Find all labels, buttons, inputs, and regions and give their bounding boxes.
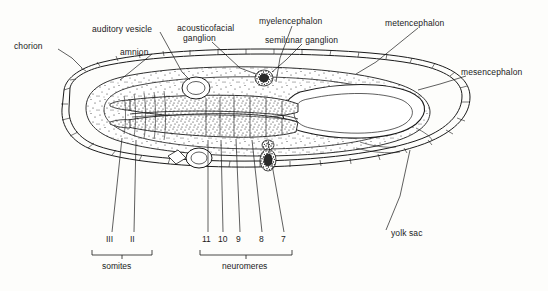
- leader-mesencephalon: [418, 76, 466, 90]
- group-label-neuromeres: neuromeres: [222, 261, 267, 271]
- label-auditory-vesicle: auditory vesicle: [92, 24, 152, 34]
- label-acousticofacial-ganglion-line1: acousticofacial: [177, 23, 234, 33]
- figure-page: chorion amnion auditory vesicle acoustic…: [0, 0, 548, 291]
- label-yolk-sac: yolk sac: [391, 228, 423, 238]
- label-amnion: amnion: [120, 47, 148, 57]
- leader-chorion: [58, 49, 82, 68]
- neuromeres-brace: [200, 250, 292, 255]
- somites-brace: [92, 250, 152, 255]
- label-myelencephalon: myelencephalon: [259, 16, 322, 26]
- group-braces: [92, 250, 292, 259]
- label-semilunar-ganglion: semilunar ganglion: [265, 35, 338, 45]
- somite-numeral-II: II: [130, 234, 135, 244]
- neuromere-numeral-8: 8: [259, 234, 264, 244]
- auditory-vesicle-upper: [182, 77, 210, 99]
- label-mesencephalon: mesencephalon: [461, 67, 522, 77]
- neuromere-numeral-9: 9: [236, 234, 241, 244]
- label-acousticofacial-ganglion-line2: ganglion: [183, 33, 216, 43]
- leader-yolk-sac: [386, 150, 410, 230]
- label-chorion: chorion: [14, 41, 43, 51]
- group-label-somites: somites: [102, 261, 131, 271]
- leader-metencephalon: [356, 28, 418, 74]
- label-metencephalon: metencephalon: [385, 18, 444, 28]
- neuromere-numeral-11: 11: [202, 234, 211, 244]
- neuromere-numeral-10: 10: [218, 234, 227, 244]
- neuromere-numeral-7: 7: [281, 234, 286, 244]
- somite-numeral-III: III: [106, 234, 113, 244]
